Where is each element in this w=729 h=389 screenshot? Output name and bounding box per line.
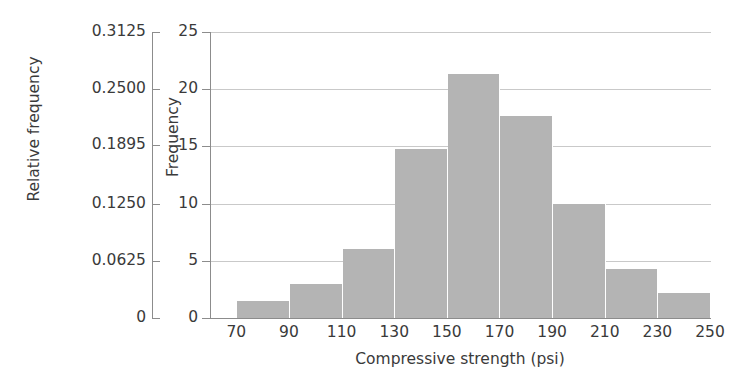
histogram-bar — [500, 116, 553, 318]
relative-frequency-axis-tick-label: 0.3125 — [92, 24, 146, 40]
histogram-bar — [343, 249, 396, 318]
relative-frequency-axis-tick-label: 0.0625 — [92, 253, 146, 269]
relative-frequency-axis-title: Relative frequency — [25, 29, 43, 229]
x-axis-tick-label: 130 — [364, 325, 424, 341]
frequency-axis-tick — [202, 32, 210, 33]
frequency-axis-tick — [202, 89, 210, 90]
frequency-axis-tick — [202, 261, 210, 262]
histogram-bar — [290, 284, 343, 318]
histogram-bar — [606, 269, 659, 318]
histogram-bar — [395, 149, 448, 318]
x-axis-tick-label: 170 — [469, 325, 529, 341]
frequency-axis-tick-label: 25 — [178, 24, 198, 40]
x-axis-tick-label: 190 — [522, 325, 582, 341]
histogram-bar — [658, 293, 711, 318]
histogram-bar — [237, 301, 290, 318]
relative-frequency-axis-tick-label: 0 — [136, 310, 146, 326]
frequency-axis-tick — [202, 318, 210, 319]
x-axis-tick-label: 150 — [417, 325, 477, 341]
x-axis-title: Compressive strength (psi) — [210, 352, 710, 368]
x-axis-tick-label: 230 — [627, 325, 687, 341]
histogram-bar — [553, 204, 606, 318]
frequency-axis-tick — [202, 204, 210, 205]
x-axis-tick-label: 90 — [259, 325, 319, 341]
x-axis-tick-label: 110 — [312, 325, 372, 341]
x-axis-tick-label: 210 — [575, 325, 635, 341]
x-axis-tick-label: 250 — [680, 325, 729, 341]
x-axis-tick-label: 70 — [206, 325, 266, 341]
frequency-axis-tick-label: 5 — [188, 253, 198, 269]
relative-frequency-axis-labels: 00.06250.12500.18950.25000.3125 — [0, 0, 146, 389]
frequency-axis-title: Frequency — [164, 62, 182, 212]
plot-area — [210, 32, 711, 319]
frequency-axis — [202, 32, 210, 318]
relative-frequency-axis-tick-label: 0.1895 — [92, 137, 146, 153]
x-axis-tick-labels: 7090110130150170190210230250 — [210, 325, 710, 347]
frequency-axis-tick-label: 0 — [188, 310, 198, 326]
relative-frequency-axis-tick-label: 0.1250 — [92, 196, 146, 212]
relative-frequency-axis-tick-label: 0.2500 — [92, 81, 146, 97]
histogram-bars — [211, 32, 711, 318]
histogram-bar — [448, 74, 501, 318]
frequency-axis-tick — [202, 146, 210, 147]
